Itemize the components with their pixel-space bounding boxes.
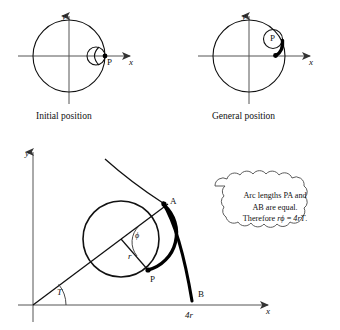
general-y-axis-label: y	[242, 12, 246, 21]
main-angle-t-label: T	[57, 288, 62, 297]
general-caption: General position	[212, 112, 275, 122]
main-x-axis-label: x	[266, 307, 270, 316]
panel-general-position	[198, 16, 310, 104]
callout-math-4rt: 4rT	[293, 214, 305, 223]
main-radius-line	[121, 239, 148, 270]
main-center-ray	[33, 204, 168, 305]
callout-text-block: Arc lengths PA and AB are equal. Therefo…	[213, 190, 337, 225]
callout-equals: =	[285, 214, 294, 223]
main-point-p-label: P	[150, 275, 155, 284]
callout-line-3-prefix: Therefore	[243, 214, 277, 223]
general-x-axis-label: x	[309, 58, 313, 67]
figure-root: y x P Initial position y x P General pos…	[0, 0, 340, 330]
figure-canvas	[0, 0, 340, 330]
main-radius-label: r	[128, 252, 132, 261]
callout-line-3: Therefore rϕ = 4rT.	[213, 213, 337, 225]
callout-line-3-suffix: .	[305, 214, 307, 223]
initial-x-axis-label: x	[129, 58, 133, 67]
general-point-p-dot	[273, 53, 278, 58]
callout-line-2: AB are equal.	[213, 202, 337, 214]
panel-initial-position	[18, 16, 130, 104]
main-curve-ab	[163, 203, 192, 301]
main-point-b-label: B	[198, 290, 204, 299]
main-y-axis-label: y	[25, 149, 29, 158]
main-angle-phi-label: ϕ	[135, 232, 139, 240]
callout-math-rphi: rϕ	[277, 214, 284, 223]
general-point-p-label: P	[270, 34, 275, 43]
main-curve-upper	[105, 159, 163, 203]
main-point-p-dot	[145, 267, 150, 272]
main-point-a-label: A	[170, 197, 177, 206]
main-x-tick-label: 4r	[185, 311, 193, 320]
initial-caption: Initial position	[36, 112, 92, 122]
initial-point-p-label: P	[107, 58, 112, 67]
main-point-a-dot	[161, 201, 166, 206]
initial-y-axis-label: y	[62, 12, 66, 21]
callout-line-1: Arc lengths PA and	[213, 190, 337, 202]
